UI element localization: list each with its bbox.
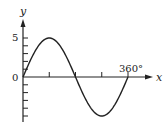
y-axis — [21, 19, 26, 122]
x-tick-label-360: 360° — [119, 63, 143, 74]
x-ticks — [49, 72, 128, 77]
sine-chart: y x 5 0 360° — [0, 0, 167, 134]
x-axis — [23, 75, 153, 80]
origin-label: 0 — [12, 72, 18, 83]
y-axis-arrow-icon — [21, 19, 26, 27]
y-axis-label: y — [19, 5, 27, 18]
x-axis-arrow-icon — [145, 75, 153, 80]
x-axis-label: x — [156, 71, 163, 84]
y-tick-label-5: 5 — [12, 32, 18, 43]
